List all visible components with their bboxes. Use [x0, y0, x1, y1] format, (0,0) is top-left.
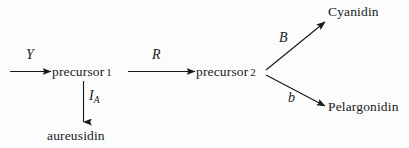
- edge-label-b-lowercase: b: [288, 90, 295, 106]
- edge-label-y: Y: [26, 47, 34, 63]
- node-precursor-1-number: 1: [106, 66, 112, 78]
- node-pelargonidin-label: Pelargonidin: [328, 99, 399, 114]
- node-pelargonidin: Pelargonidin: [328, 99, 399, 115]
- node-aureusidin-label: aureusidin: [47, 128, 105, 143]
- node-precursor-1-label: precursor: [52, 64, 104, 79]
- pathway-diagram: precursor1 precursor2 aureusidin Cyanidi…: [0, 0, 409, 148]
- node-precursor-2-number: 2: [250, 66, 256, 78]
- edge-label-i-a-subscript: A: [94, 95, 100, 105]
- node-precursor-2: precursor2: [196, 64, 256, 80]
- node-precursor-2-label: precursor: [196, 64, 248, 79]
- node-cyanidin-label: Cyanidin: [328, 4, 379, 19]
- edge-label-i-a-base: I: [89, 88, 94, 103]
- edge-label-r: R: [152, 47, 161, 63]
- node-aureusidin: aureusidin: [47, 128, 105, 144]
- arrow-precursor2-to-cyanidin: [266, 22, 325, 70]
- arrow-precursor2-to-pelargonidin: [266, 75, 325, 106]
- node-cyanidin: Cyanidin: [328, 4, 379, 20]
- edge-label-i-a: IA: [89, 88, 100, 105]
- node-precursor-1: precursor1: [52, 64, 112, 80]
- edge-label-b-uppercase: B: [279, 30, 288, 46]
